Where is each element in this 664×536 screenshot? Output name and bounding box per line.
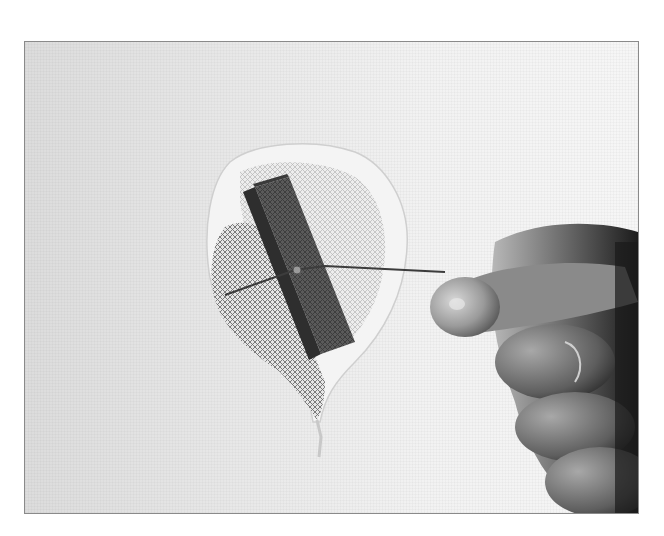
thumb xyxy=(430,277,500,337)
hand-pulling-wire xyxy=(430,224,638,513)
photo-scene xyxy=(25,42,638,513)
wall-crack xyxy=(317,420,321,457)
photo-frame xyxy=(24,41,639,514)
